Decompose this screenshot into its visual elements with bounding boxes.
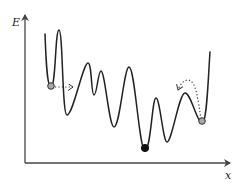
global-minimum-ball xyxy=(141,144,148,151)
local-minimum-ball-right xyxy=(199,118,206,125)
y-axis-label: E xyxy=(11,16,20,29)
energy-landscape-diagram: E x xyxy=(0,0,242,183)
local-minimum-ball-left xyxy=(48,83,55,90)
energy-curve xyxy=(45,30,210,150)
x-axis-label: x xyxy=(225,169,232,182)
